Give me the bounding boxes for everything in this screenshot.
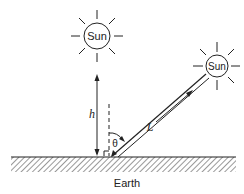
earth-label: Earth <box>114 177 140 189</box>
sun-inclined-label: Sun <box>208 61 226 72</box>
height-label: h <box>89 107 95 121</box>
sun-ray <box>111 74 209 157</box>
sun-geometry-diagram: Sun Sun h L θ <box>0 0 244 194</box>
path-length-arrow <box>156 90 193 122</box>
path-length-label: L <box>146 120 154 134</box>
ground-hatching <box>11 157 236 172</box>
sun-overhead-label: Sun <box>87 30 107 42</box>
angle-label: θ <box>112 138 118 149</box>
sun-overhead-icon: Sun <box>71 10 123 62</box>
sun-inclined-icon: Sun <box>193 42 240 90</box>
right-angle-marker <box>104 151 109 156</box>
height-arrow <box>95 74 100 156</box>
